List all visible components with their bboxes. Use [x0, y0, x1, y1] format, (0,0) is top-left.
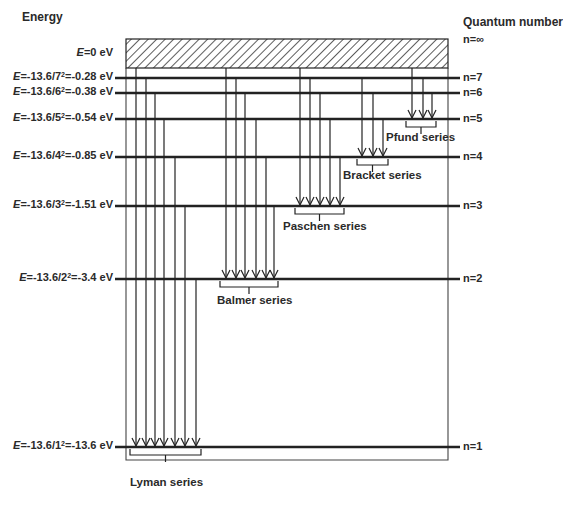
energy-symbol: E — [77, 46, 84, 58]
series-brace — [220, 281, 278, 294]
continuum-energy-label: E=0 eV — [0, 46, 113, 58]
quantum-label-n3: n=3 — [463, 199, 482, 211]
quantum-label-n6: n=6 — [463, 86, 482, 98]
energy-label-n1: E=-13.6/12=-13.6 eV — [0, 439, 113, 451]
series-label-balmer: Balmer series — [217, 294, 292, 306]
quantum-number-title: Quantum number — [463, 15, 563, 29]
energy-axis-title: Energy — [22, 10, 63, 24]
energy-value: =0 eV — [84, 46, 113, 58]
quantum-label-n2: n=2 — [463, 272, 482, 284]
series-label-lyman: Lyman series — [130, 476, 203, 488]
continuum-hatched-box — [126, 39, 448, 68]
energy-label-n2: E=-13.6/22=-3.4 eV — [0, 271, 113, 283]
diagram-frame — [126, 68, 448, 460]
quantum-label-n1: n=1 — [463, 440, 482, 452]
energy-label-n6: E=-13.6/62=-0.38 eV — [0, 85, 113, 97]
transition-arrows — [132, 68, 436, 446]
series-label-bracket: Bracket series — [343, 169, 422, 181]
continuum-quantum-label: n=∞ — [463, 33, 484, 45]
quantum-label-n7: n=7 — [463, 71, 482, 83]
continuum-box — [126, 39, 448, 68]
energy-label-n3: E=-13.6/32=-1.51 eV — [0, 198, 113, 210]
quantum-label-n5: n=5 — [463, 112, 482, 124]
frame-outline — [126, 68, 448, 460]
energy-label-n4: E=-13.6/42=-0.85 eV — [0, 149, 113, 161]
quantum-label-n4: n=4 — [463, 150, 482, 162]
energy-label-n7: E=-13.6/72=-0.28 eV — [0, 70, 113, 82]
series-label-paschen: Paschen series — [283, 220, 367, 232]
series-label-pfund: Pfund series — [386, 131, 455, 143]
energy-label-n5: E=-13.6/52=-0.54 eV — [0, 111, 113, 123]
